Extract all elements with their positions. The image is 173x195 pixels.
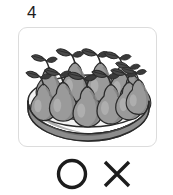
answer-choice-circle[interactable] xyxy=(52,155,92,195)
image-card xyxy=(18,27,157,147)
question-number: 4 xyxy=(27,4,36,21)
answer-choice-cross[interactable] xyxy=(97,155,137,195)
pears-on-plate-illustration xyxy=(19,28,157,147)
answer-choices xyxy=(0,155,173,195)
pear-front-row xyxy=(26,67,151,127)
